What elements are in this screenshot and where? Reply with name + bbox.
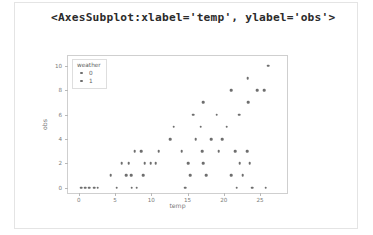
scatter-point: [80, 186, 83, 189]
scatter-point: [144, 162, 147, 165]
x-tick-label: 0: [77, 197, 81, 203]
scatter-point: [210, 138, 213, 141]
y-tick-label: 4: [58, 136, 62, 142]
y-axis-label-text: obs: [41, 119, 48, 130]
x-tick: [188, 193, 189, 196]
x-tick-label: 5: [113, 197, 117, 203]
scatter-point: [84, 186, 87, 189]
scatter-point: [130, 174, 133, 177]
x-tick-label: 25: [256, 197, 263, 203]
legend-item: 0: [77, 69, 101, 77]
scatter-point: [136, 186, 139, 189]
x-tick: [260, 193, 261, 196]
scatter-point: [202, 101, 205, 104]
scatter-point: [140, 150, 143, 153]
y-tick: [65, 66, 68, 67]
y-tick-label: 6: [58, 112, 62, 118]
scatter-point: [128, 162, 131, 165]
scatter-point: [247, 101, 250, 104]
x-tick-label: 10: [148, 197, 155, 203]
scatter-point: [202, 162, 205, 165]
x-tick: [224, 193, 225, 196]
scatter-point: [267, 64, 270, 67]
scatter-point: [265, 186, 268, 189]
scatter-point: [217, 150, 220, 153]
matplotlib-figure: obs temp 0510152025 0246810 weather 0: [29, 41, 349, 226]
x-tick-label: 20: [220, 197, 227, 203]
scatter-point: [93, 186, 96, 189]
scatter-point: [133, 150, 136, 153]
legend-item-label: 0: [89, 70, 93, 76]
scatter-point: [246, 77, 249, 80]
scatter-point: [221, 138, 224, 141]
scatter-point: [130, 186, 133, 189]
scatter-point: [238, 113, 241, 116]
scatter-point: [120, 162, 123, 165]
y-tick: [65, 139, 68, 140]
scatter-point: [215, 113, 218, 116]
scatter-point: [238, 162, 241, 165]
scatter-point: [187, 162, 190, 165]
y-tick: [65, 90, 68, 91]
screenshot-root: <AxesSubplot:xlabel='temp', ylabel='obs'…: [0, 0, 373, 235]
legend-title: weather: [77, 62, 101, 68]
plot-axes: 0510152025 0246810 weather 0 1: [67, 55, 288, 194]
y-tick: [65, 163, 68, 164]
scatter-point: [149, 162, 152, 165]
x-tick-label: 15: [184, 197, 191, 203]
y-axis-label: obs: [39, 55, 50, 194]
scatter-point: [109, 174, 112, 177]
scatter-point: [125, 174, 128, 177]
y-tick-label: 0: [58, 185, 62, 191]
scatter-point: [236, 186, 239, 189]
scatter-point: [234, 150, 237, 153]
scatter-point: [157, 150, 160, 153]
y-tick-label: 10: [55, 63, 62, 69]
legend-item: 1: [77, 77, 101, 85]
scatter-point: [225, 125, 228, 128]
scatter-point: [230, 89, 233, 92]
scatter-point: [230, 174, 233, 177]
circle-marker-icon: [77, 72, 86, 75]
notebook-output-card: <AxesSubplot:xlabel='temp', ylabel='obs'…: [14, 2, 358, 229]
y-tick: [65, 188, 68, 189]
scatter-point: [201, 150, 204, 153]
circle-marker-icon: [77, 80, 86, 83]
scatter-point: [142, 174, 145, 177]
scatter-point: [115, 186, 118, 189]
legend: weather 0 1: [72, 59, 107, 89]
scatter-point: [241, 174, 244, 177]
scatter-point: [169, 138, 172, 141]
scatter-point: [88, 186, 91, 189]
x-tick: [79, 193, 80, 196]
y-tick-label: 2: [58, 160, 62, 166]
x-tick: [151, 193, 152, 196]
scatter-point: [192, 113, 195, 116]
axes-repr-text: <AxesSubplot:xlabel='temp', ylabel='obs'…: [51, 11, 335, 24]
scatter-point: [256, 89, 259, 92]
y-tick-label: 8: [58, 87, 62, 93]
scatter-point: [263, 89, 266, 92]
scatter-point: [251, 186, 254, 189]
x-axis-label: temp: [67, 202, 288, 209]
scatter-point: [154, 162, 157, 165]
scatter-point: [172, 125, 175, 128]
scatter-point: [205, 174, 208, 177]
legend-item-label: 1: [89, 78, 93, 84]
scatter-point: [180, 150, 183, 153]
scatter-point: [249, 162, 252, 165]
scatter-point: [199, 125, 202, 128]
scatter-point: [184, 186, 187, 189]
scatter-point: [246, 150, 249, 153]
x-tick: [115, 193, 116, 196]
scatter-point: [194, 138, 197, 141]
y-tick: [65, 115, 68, 116]
scatter-point: [96, 186, 99, 189]
scatter-point: [189, 174, 192, 177]
